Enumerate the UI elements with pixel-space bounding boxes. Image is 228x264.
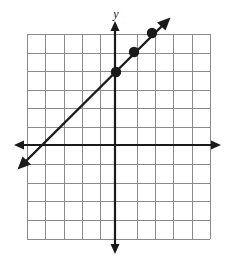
y-axis-label: y: [112, 7, 119, 21]
data-point-2-6: [147, 28, 157, 38]
data-point-1-5: [129, 47, 139, 57]
coordinate-plane-figure: y: [0, 0, 228, 264]
data-point-0-4: [111, 67, 121, 77]
